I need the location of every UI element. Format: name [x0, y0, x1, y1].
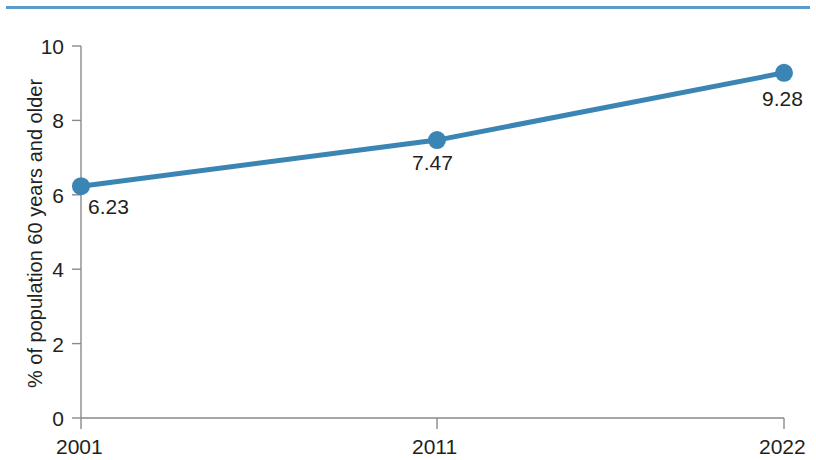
y-axis-title: % of population 60 years and older	[24, 69, 47, 399]
data-point-2011	[428, 131, 446, 149]
data-label-2001: 6.23	[88, 196, 129, 217]
data-label-2022: 9.28	[762, 88, 803, 109]
line-chart-plot	[0, 0, 816, 460]
x-tick-label-2001: 2001	[56, 436, 103, 457]
y-tick-label-10: 10	[18, 36, 64, 57]
data-label-2011: 7.47	[412, 152, 453, 173]
chart-page: 10 8 6 4 2 0 2001 2011 2022 6.23 7.47 9.…	[0, 0, 816, 460]
data-point-2001	[72, 177, 90, 195]
data-point-2022	[775, 64, 793, 82]
x-tick-label-2022: 2022	[759, 436, 806, 457]
y-tick-label-0: 0	[18, 408, 64, 429]
x-tick-label-2011: 2011	[412, 436, 457, 457]
